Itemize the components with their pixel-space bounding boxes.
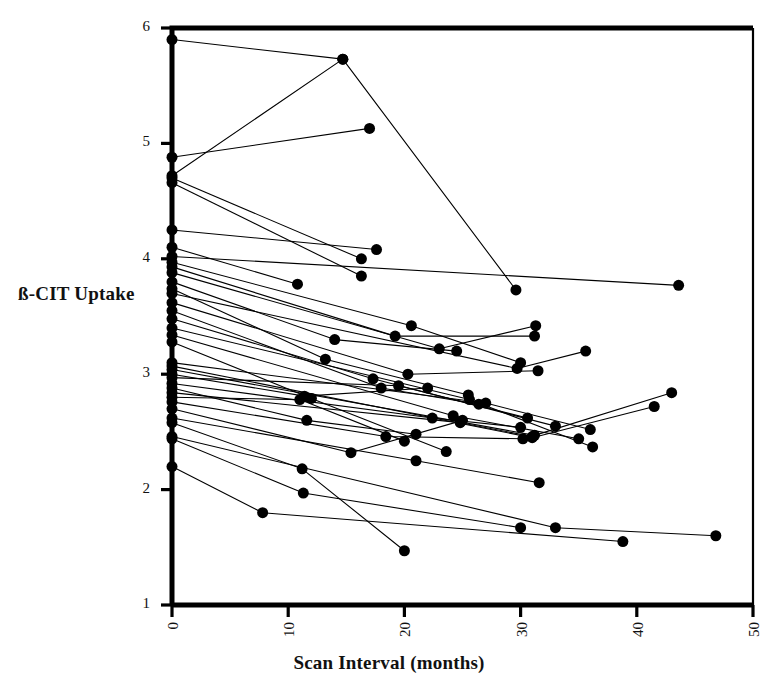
data-point-marker: [434, 343, 445, 354]
y-tick-label: 3: [124, 364, 150, 381]
data-point-marker: [666, 387, 677, 398]
data-point-marker: [527, 431, 538, 442]
data-point-marker: [550, 421, 561, 432]
data-point-marker: [167, 431, 178, 442]
data-point-marker: [301, 415, 312, 426]
data-point-marker: [167, 177, 178, 188]
data-point-marker: [167, 336, 178, 347]
figure-beta-cit-uptake: ß-CIT Uptake Scan Interval (months) 1234…: [0, 0, 778, 694]
data-point-marker: [292, 279, 303, 290]
data-point-marker: [167, 34, 178, 45]
data-point-marker: [411, 455, 422, 466]
data-point-marker: [393, 380, 404, 391]
data-point-marker: [617, 536, 628, 547]
data-point-marker: [380, 431, 391, 442]
y-tick-label: 6: [124, 18, 150, 35]
data-point-marker: [512, 363, 523, 374]
y-tick-label: 1: [124, 595, 150, 612]
data-point-marker: [364, 123, 375, 134]
data-point-marker: [368, 373, 379, 384]
data-point-marker: [167, 224, 178, 235]
data-point-marker: [480, 398, 491, 409]
data-point-marker: [390, 331, 401, 342]
data-point-marker: [294, 394, 305, 405]
data-point-marker: [517, 433, 528, 444]
data-point-marker: [337, 54, 348, 65]
data-point-marker: [534, 477, 545, 488]
data-point-marker: [399, 436, 410, 447]
data-point-marker: [522, 413, 533, 424]
data-point-marker: [533, 365, 544, 376]
data-point-marker: [167, 152, 178, 163]
data-point-marker: [573, 433, 584, 444]
data-point-marker: [585, 424, 596, 435]
data-point-marker: [649, 401, 660, 412]
data-point-marker: [345, 447, 356, 458]
data-point-marker: [515, 522, 526, 533]
data-point-marker: [371, 244, 382, 255]
data-point-marker: [710, 530, 721, 541]
data-point-marker: [257, 507, 268, 518]
plot-canvas: [0, 0, 778, 694]
x-tick-label: 30: [514, 622, 531, 637]
data-point-marker: [451, 346, 462, 357]
data-point-marker: [673, 280, 684, 291]
data-point-marker: [298, 488, 309, 499]
data-point-marker: [329, 334, 340, 345]
data-point-marker: [399, 545, 410, 556]
data-point-marker: [411, 429, 422, 440]
data-point-marker: [422, 383, 433, 394]
data-point-marker: [457, 415, 468, 426]
y-tick-label: 5: [124, 133, 150, 150]
data-point-marker: [167, 461, 178, 472]
data-point-marker: [530, 320, 541, 331]
data-point-marker: [515, 422, 526, 433]
trajectory-lines: [172, 40, 716, 551]
data-point-marker: [427, 413, 438, 424]
data-point-marker: [402, 369, 413, 380]
data-point-marker: [376, 383, 387, 394]
data-point-marker: [529, 331, 540, 342]
data-point-marker: [297, 463, 308, 474]
x-tick-label: 10: [281, 622, 298, 637]
y-axis-title: ß-CIT Uptake: [18, 283, 135, 305]
data-point-marker: [550, 522, 561, 533]
data-point-marker: [580, 346, 591, 357]
data-point-marker: [587, 441, 598, 452]
data-point-marker: [356, 253, 367, 264]
x-tick-label: 20: [397, 622, 414, 637]
data-point-marker: [167, 417, 178, 428]
data-point-marker: [406, 320, 417, 331]
data-point-marker: [320, 354, 331, 365]
y-tick-label: 4: [124, 249, 150, 266]
data-point-marker: [441, 446, 452, 457]
data-point-marker: [510, 284, 521, 295]
x-tick-label: 50: [746, 622, 763, 637]
x-axis-title: Scan Interval (months): [0, 652, 778, 674]
data-point-marker: [356, 271, 367, 282]
x-tick-label: 0: [165, 622, 182, 630]
x-tick-label: 40: [630, 622, 647, 637]
y-tick-label: 2: [124, 480, 150, 497]
data-point-marker: [464, 394, 475, 405]
